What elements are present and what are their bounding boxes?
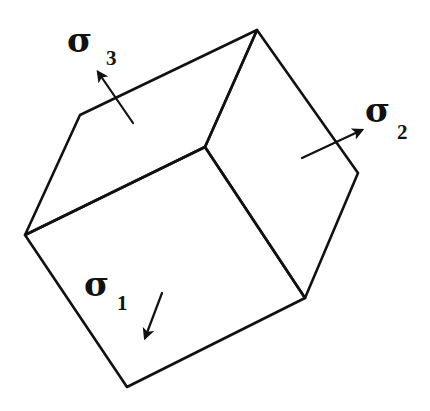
label-sigma3: σ 3 bbox=[67, 20, 117, 70]
sigma3-subscript: 3 bbox=[106, 46, 117, 70]
sigma1-symbol: σ bbox=[84, 264, 109, 304]
sigma3-arrow-icon bbox=[98, 72, 133, 123]
sigma3-symbol: σ bbox=[67, 20, 92, 60]
sigma2-symbol: σ bbox=[365, 90, 390, 130]
sigma2-subscript: 2 bbox=[397, 120, 408, 144]
principal-stress-cube-diagram: σ 3 σ 2 σ 1 bbox=[0, 0, 430, 411]
label-sigma1: σ 1 bbox=[84, 264, 128, 315]
cube-right-face bbox=[205, 30, 358, 298]
cube-front-face bbox=[25, 147, 305, 387]
label-sigma2: σ 2 bbox=[365, 90, 408, 144]
cube-top-face bbox=[25, 30, 257, 235]
cube bbox=[25, 30, 358, 387]
sigma1-subscript: 1 bbox=[117, 291, 128, 315]
sigma1-arrow-icon bbox=[145, 293, 162, 338]
